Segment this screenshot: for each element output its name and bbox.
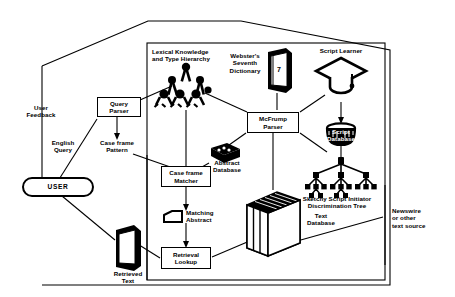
- node-case-frame-matcher-label: Case frame Matcher: [169, 169, 202, 183]
- label-websters-dictionary: Webster's Seventh Dictionary: [222, 52, 268, 74]
- node-mcfrump-parser-label: McFrump Parser: [259, 115, 287, 129]
- label-abstract-database: Abstract Database: [202, 159, 252, 174]
- connector-lexical-to-mcfrump: [205, 93, 247, 112]
- node-query-parser[interactable]: Query Parser: [97, 97, 141, 117]
- label-text-database: Text Database: [300, 212, 342, 227]
- label-newswire: Newswire or other text source: [392, 207, 452, 229]
- tree-graph-icon: [305, 158, 377, 198]
- label-script-learner: Script Learner: [310, 47, 372, 54]
- connector-retrieval-to-textdb: [212, 240, 252, 257]
- diagram-canvas: Query Parser Case frame Matcher Retrieva…: [0, 0, 455, 297]
- label-english-query: English Query: [38, 139, 88, 154]
- node-mcfrump-parser[interactable]: McFrump Parser: [247, 112, 299, 133]
- label-dictionary-volume-number: 7: [272, 66, 286, 73]
- retrieved-book-icon: [116, 225, 141, 271]
- node-retrieval-lookup-label: Retrieval Lookup: [173, 251, 199, 265]
- label-script-database: Script Database: [322, 128, 360, 143]
- label-retrieved-text: Retrieved Text: [100, 270, 156, 285]
- node-query-parser-label: Query Parser: [109, 100, 128, 114]
- label-sketchy-script: Sketchy Script Initiator Discrimination …: [286, 195, 388, 210]
- node-retrieval-lookup[interactable]: Retrieval Lookup: [161, 247, 211, 269]
- node-user-label: USER: [47, 183, 68, 190]
- node-user[interactable]: USER: [22, 177, 94, 197]
- connector-mcfrump-to-scriptlearner: [300, 95, 325, 112]
- network-tree-icon: [155, 63, 212, 107]
- graduation-cap-icon: [316, 58, 366, 93]
- document-card-icon: [164, 211, 182, 222]
- label-user-feedback: User Feedback: [10, 104, 72, 119]
- label-case-frame-pattern: Case frame Pattern: [88, 139, 146, 154]
- connector-retrievedtext-to-user: [62, 196, 115, 240]
- label-matching-abstract: Matching Abstract: [186, 209, 234, 224]
